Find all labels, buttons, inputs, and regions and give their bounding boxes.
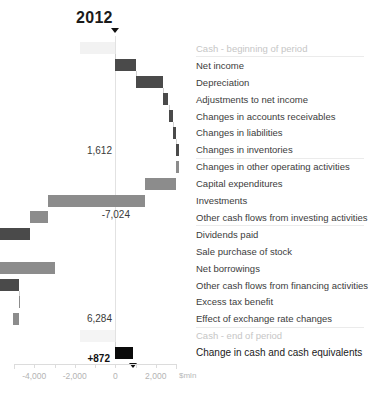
waterfall-bar [163,93,169,105]
value-label: +872 [0,353,110,364]
category-label-list: Cash - beginning of periodNet incomeDepr… [196,36,364,358]
waterfall-bar [0,228,30,240]
list-item-label: Excess tax benefit [196,296,273,307]
waterfall-bar [169,110,173,122]
list-item-label: Depreciation [196,77,249,88]
waterfall-bar [80,330,115,342]
list-separator [196,158,364,159]
list-item-label: Sale purchase of stock [196,246,292,257]
list-item-label: Cash - end of period [196,330,282,341]
list-item[interactable]: Depreciation [196,75,364,89]
axis-tick-label: -2,000 [63,371,87,381]
list-item-label: Change in cash and cash equivalents [196,347,362,358]
list-item-label: Changes in liabilities [196,127,283,138]
waterfall-bar [48,195,145,207]
x-axis: -4,000-2,00002,000 $mln [0,364,190,394]
list-item[interactable]: Changes in liabilities [196,126,364,140]
list-item[interactable]: Sale purchase of stock [196,244,364,258]
list-item[interactable]: Changes in other operating activities [196,160,364,174]
list-item-label: Changes in other operating activities [196,161,350,172]
axis-tick [75,364,76,368]
waterfall-bar [0,279,19,291]
list-item[interactable]: Cash - end of period [196,329,364,343]
list-item-label: Capital expenditures [196,178,283,189]
list-item-label: Adjustments to net income [196,94,308,105]
waterfall-bar [0,262,55,274]
bar-connector [136,71,137,76]
waterfall-bar [136,76,163,88]
start-marker-arrow [111,28,119,33]
axis-tick-label: 0 [113,371,118,381]
axis-tick [95,364,96,368]
axis-tick [156,364,157,368]
value-label: -7,024 [0,209,130,220]
list-item[interactable]: Capital expenditures [196,177,364,191]
axis-unit-label: $mln [179,371,196,380]
axis-tick [115,364,116,368]
value-label: 6,284 [0,313,112,324]
bar-connector [115,342,116,347]
list-item-label: Changes in accounts receivables [196,111,335,122]
value-label: 1,612 [0,145,112,156]
list-item[interactable]: Net income [196,58,364,72]
list-item[interactable]: Dividends paid [196,227,364,241]
axis-end-cap [176,364,177,369]
list-item[interactable]: Changes in inventories [196,143,364,157]
list-item-label: Other cash flows from investing activiti… [196,212,368,223]
list-item-label: Changes in inventories [196,144,293,155]
list-item[interactable]: Other cash flows from financing activiti… [196,278,364,292]
bar-connector [169,105,170,110]
waterfall-bar [115,59,135,71]
list-item[interactable]: Net borrowings [196,261,364,275]
list-item[interactable]: Change in cash and cash equivalents [196,346,364,360]
waterfall-bar [176,161,179,173]
waterfall-bar [145,178,175,190]
list-separator [196,327,364,328]
bar-connector [176,139,177,144]
list-item-label: Other cash flows from financing activiti… [196,280,368,291]
list-item-label: Investments [196,195,247,206]
axis-end-cap [14,364,15,369]
list-item[interactable]: Changes in accounts receivables [196,109,364,123]
list-item[interactable]: Investments [196,194,364,208]
waterfall-bar [176,144,179,156]
list-item[interactable]: Cash - beginning of period [196,41,364,55]
axis-tick [34,364,35,368]
list-item-label: Net income [196,60,244,71]
list-item[interactable]: Other cash flows from investing activiti… [196,210,364,224]
plot-area: 1,612-7,0246,284+872 [0,36,190,358]
list-separator [196,225,364,226]
waterfall-bar [80,42,115,54]
list-item[interactable]: Adjustments to net income [196,92,364,106]
list-item[interactable]: Excess tax benefit [196,295,364,309]
list-item-label: Net borrowings [196,263,260,274]
waterfall-bar [115,347,133,359]
list-item-label: Dividends paid [196,229,258,240]
axis-tick-label: -4,000 [22,371,46,381]
page-title: 2012 [76,9,113,27]
axis-tick [136,364,137,368]
list-separator [196,56,364,57]
axis-tick-label: 2,000 [145,371,166,381]
waterfall-bar [19,296,21,308]
axis-tick [55,364,56,368]
list-item-label: Cash - beginning of period [196,43,307,54]
bar-connector [163,88,164,93]
list-item-label: Effect of exchange rate changes [196,313,332,324]
bar-connector [173,122,174,127]
bar-connector [19,291,20,296]
waterfall-bar [173,127,176,139]
bar-connector [115,54,116,59]
list-item[interactable]: Effect of exchange rate changes [196,312,364,326]
